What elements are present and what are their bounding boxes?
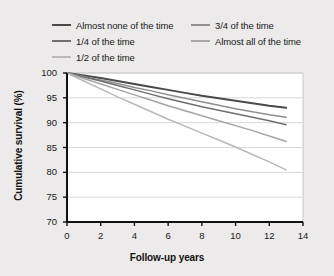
chart-figure: Almost none of the time 3/4 of the time … (0, 0, 334, 276)
y-tick-label-85: 85 (33, 142, 57, 153)
y-tick-label-75: 75 (33, 191, 57, 202)
x-tick-label-10: 10 (226, 230, 246, 241)
x-axis-title: Follow-up years (0, 252, 334, 263)
x-tick-label-6: 6 (158, 230, 178, 241)
x-tick-label-12: 12 (259, 230, 279, 241)
y-axis-title: Cumulative survival (%) (13, 66, 24, 226)
y-tick-label-95: 95 (33, 92, 57, 103)
x-tick-label-2: 2 (91, 230, 111, 241)
y-tick-label-70: 70 (33, 216, 57, 227)
y-tick-label-90: 90 (33, 117, 57, 128)
x-tick-label-14: 14 (293, 230, 313, 241)
x-tick-label-8: 8 (192, 230, 212, 241)
x-tick-label-4: 4 (124, 230, 144, 241)
y-tick-label-80: 80 (33, 166, 57, 177)
x-tick-label-0: 0 (57, 230, 77, 241)
y-tick-label-100: 100 (33, 67, 57, 78)
